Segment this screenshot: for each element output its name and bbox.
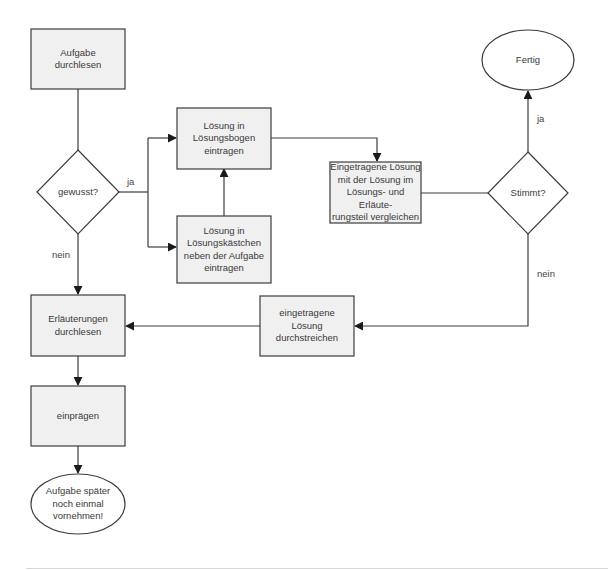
node-correct: Stimmt? — [488, 152, 568, 234]
node-redo-later: Aufgabe später noch einmal vornehmen! — [31, 474, 125, 534]
node-enter-answer-sheet: Lösung in Lösungsbogen eintragen — [177, 108, 271, 169]
edge-label-known-yes: ja — [127, 176, 134, 187]
edge-label-correct-yes: ja — [537, 113, 544, 124]
footer-divider — [26, 568, 608, 569]
edge-label-correct-no: nein — [537, 268, 555, 279]
edge-correct-to-strike — [355, 234, 528, 326]
node-read-explanations: Erläuterungen durchlesen — [31, 295, 125, 356]
node-read-task: Aufgabe durchlesen — [31, 29, 125, 89]
node-strike-answer: eingetragene Lösung durchstreichen — [260, 296, 354, 356]
node-known: gewusst? — [37, 150, 119, 234]
edge-label-known-no: nein — [52, 249, 70, 260]
node-compare: Eingetragene Lösung mit der Lösung im Lö… — [330, 162, 421, 223]
node-done: Fertig — [482, 30, 574, 90]
edge-sheet-to-compare — [271, 138, 377, 161]
node-enter-answer-box: Lösung in Lösungskästchen neben der Aufg… — [177, 216, 271, 283]
node-memorize: einprägen — [31, 386, 125, 446]
